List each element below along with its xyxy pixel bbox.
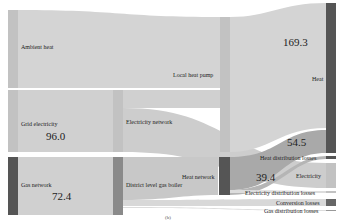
node-electricity-network [113, 90, 123, 152]
node-grid-electricity [8, 90, 18, 152]
label-electricity: Electricity [296, 173, 321, 179]
label-ambient-heat: Ambient heat [21, 44, 54, 50]
flow-electricity-network-to-heatpump [123, 90, 220, 108]
node-heat-network [219, 157, 230, 195]
node-gas-network [8, 157, 18, 215]
label-electricity-network: Electricity network [126, 119, 172, 125]
label-gas-network: Gas network [21, 182, 52, 188]
node-gas-distribution-losses [326, 210, 336, 211]
label-heat-network: Heat network [182, 174, 215, 180]
node-heat-distribution-losses [326, 156, 336, 159]
node-district-gas-boiler [113, 157, 123, 215]
node-electricity-distribution-losses [326, 191, 336, 193]
value-gas-network: 72.4 [52, 191, 71, 202]
label-district-gas-boiler: District level gas boiler [126, 182, 182, 188]
node-local-heat-pump [220, 17, 230, 152]
value-grid-electricity: 96.0 [46, 131, 65, 142]
label-electricity-distribution-losses: Electricity distribution losses [245, 190, 315, 196]
value-54-5: 54.5 [287, 137, 306, 148]
figure-caption: (b) [165, 215, 171, 220]
node-conversion-losses [326, 199, 336, 206]
label-grid-electricity: Grid electricity [21, 121, 57, 127]
node-heat [326, 3, 336, 153]
node-ambient-heat [8, 10, 18, 88]
node-electricity [326, 163, 336, 188]
label-heat: Heat [312, 76, 323, 82]
value-heat: 169.3 [283, 37, 308, 48]
label-gas-distribution-losses: Gas distribution losses [264, 208, 318, 214]
label-heat-distribution-losses: Heat distribution losses [260, 155, 316, 161]
value-39-4: 39.4 [256, 172, 275, 183]
label-local-heat-pump: Local heat pump [173, 72, 213, 78]
label-conversion-losses: Conversion losses [276, 200, 320, 206]
